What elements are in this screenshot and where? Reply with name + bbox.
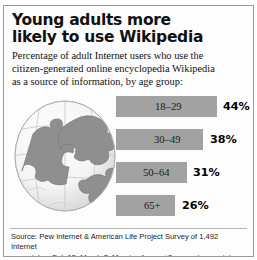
subtitle-line-1: Percentage of adult Internet users who u… — [12, 50, 245, 63]
page-title: Young adults more likely to use Wikipedi… — [12, 12, 245, 46]
subtitle-line-3: as a source of information, by age group… — [12, 76, 245, 89]
bar-value-label: 26% — [182, 195, 209, 216]
bar-value-label: 38% — [210, 129, 237, 150]
bar-value-label: 31% — [193, 162, 220, 183]
card-frame: Young adults more likely to use Wikipedi… — [3, 5, 254, 257]
table-row: 65+ 26% — [4, 195, 253, 216]
source-line-2: users taken Feb 15–March 7. Margin of er… — [11, 253, 246, 258]
bar-chart: 18–29 44% 30–49 38% 50–64 31% — [4, 94, 253, 224]
bar-category-label: 18–29 — [155, 96, 181, 117]
bar-value-label: 44% — [223, 96, 250, 117]
bar-category-label: 65+ — [144, 195, 161, 216]
chart-subtitle: Percentage of adult Internet users who u… — [12, 50, 245, 89]
table-row: 50–64 31% — [4, 162, 253, 183]
source-divider — [10, 228, 247, 229]
bar-category-label: 30–49 — [154, 129, 180, 150]
bar-category-label: 50–64 — [143, 162, 169, 183]
table-row: 30–49 38% — [4, 129, 253, 150]
subtitle-line-2: citizen-generated online encyclopedia Wi… — [12, 63, 245, 76]
infographic-card: Young adults more likely to use Wikipedi… — [0, 0, 257, 260]
card-inner: Young adults more likely to use Wikipedi… — [4, 6, 253, 256]
source-note: Source: Pew Internet & American Life Pro… — [11, 232, 246, 257]
title-line-1: Young adults more — [12, 12, 245, 29]
source-line-1: Source: Pew Internet & American Life Pro… — [11, 232, 246, 253]
bar-series: 18–29 44% 30–49 38% 50–64 31% — [4, 94, 253, 224]
table-row: 18–29 44% — [4, 96, 253, 117]
title-line-2: likely to use Wikipedia — [12, 29, 245, 46]
